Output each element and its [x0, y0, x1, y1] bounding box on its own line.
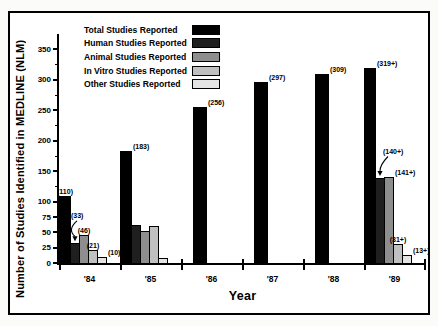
x-tick-label: '85 [120, 274, 181, 284]
year-group: (110)(46)(21)(10) [59, 196, 120, 263]
legend-item-label: Animal Studies Reported [84, 52, 192, 62]
x-tick-label: '84 [59, 274, 120, 284]
y-tick-label: 25 [42, 243, 51, 252]
y-tick-label: 50 [42, 228, 51, 237]
bar-value-label: (183) [133, 143, 149, 150]
y-tick-label: 75 [42, 213, 51, 222]
legend-item: Animal Studies Reported [84, 50, 220, 64]
y-tick-label: 300 [38, 75, 51, 84]
bar-value-label: (319+) [377, 60, 397, 67]
y-tick-label: 0 [47, 259, 51, 268]
y-tick [53, 48, 59, 50]
x-axis-title: Year [59, 289, 426, 303]
y-tick-label: 350 [38, 45, 51, 54]
y-tick-label: 100 [38, 197, 51, 206]
legend-swatch [192, 25, 220, 35]
legend-swatch [192, 79, 220, 89]
y-tick [53, 79, 59, 81]
bar: (256) [193, 107, 207, 263]
bar-value-label: (13+) [413, 247, 430, 254]
bar-value-label: (141+) [395, 169, 415, 176]
legend-item-label: Total Studies Reported [84, 25, 192, 35]
bar [158, 258, 168, 264]
y-axis-title: Number of Studies Identified in MEDLINE … [14, 25, 26, 313]
callout-label: (140+) [383, 148, 403, 155]
year-group: (183) [120, 151, 181, 263]
x-tick-label: '87 [242, 274, 303, 284]
bar-value-label: (110) [57, 188, 73, 195]
bar-value-label: (256) [208, 99, 224, 106]
y-tick [53, 170, 59, 172]
bar-value-label: (21) [87, 242, 99, 249]
legend-item-label: Human Studies Reported [84, 38, 192, 48]
bar: (309) [315, 74, 329, 263]
bar-value-label: (10) [108, 249, 120, 256]
legend-swatch [192, 66, 220, 76]
figure-border: Number of Studies Identified in MEDLINE … [8, 11, 430, 315]
y-tick [53, 109, 59, 111]
legend-item-label: Other Studies Reported [84, 79, 192, 89]
y-tick [55, 95, 59, 96]
y-tick-label: 150 [38, 167, 51, 176]
year-group: (319+)(141+)(31+)(13+) [364, 68, 425, 263]
legend-item: Human Studies Reported [84, 37, 220, 51]
callout-label: (33) [71, 212, 83, 219]
y-tick-label: 200 [38, 136, 51, 145]
bar: (13+) [402, 255, 412, 263]
bar: (297) [254, 82, 268, 263]
y-tick-label: 250 [38, 106, 51, 115]
x-tick-label: '88 [303, 274, 364, 284]
x-tick-label: '86 [181, 274, 242, 284]
y-tick [55, 64, 59, 65]
y-tick [55, 125, 59, 126]
bar-value-label: (46) [78, 227, 90, 234]
x-tick-label: '89 [364, 274, 425, 284]
bar-value-label: (297) [269, 74, 285, 81]
legend-item: Total Studies Reported [84, 23, 220, 37]
legend-item: Other Studies Reported [84, 77, 220, 91]
legend-swatch [192, 52, 220, 62]
legend-item: In Vitro Studies Reported [84, 64, 220, 78]
bar-value-label: (31+) [390, 236, 407, 243]
y-tick [53, 140, 59, 142]
legend-swatch [192, 38, 220, 48]
legend: Total Studies ReportedHuman Studies Repo… [84, 23, 220, 91]
bar: (10) [97, 257, 107, 263]
bar-value-label: (309) [330, 66, 346, 73]
y-tick [55, 156, 59, 157]
legend-item-label: In Vitro Studies Reported [84, 66, 192, 76]
